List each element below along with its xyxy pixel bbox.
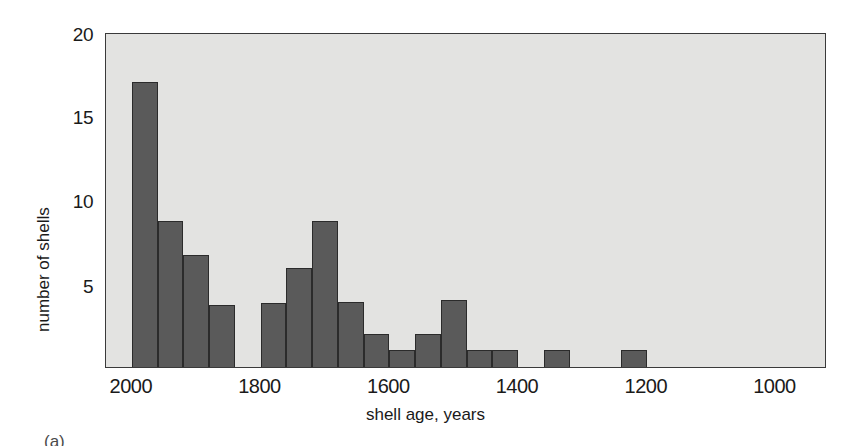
- x-tick-label-1000: 1000: [730, 375, 820, 397]
- y-tick-label-20: 20: [73, 25, 93, 44]
- histogram-bar: [544, 350, 570, 367]
- histogram-bar: [389, 350, 415, 367]
- histogram-bar: [261, 303, 287, 367]
- histogram-bar: [621, 350, 647, 367]
- histogram-bar: [312, 221, 338, 367]
- plot-frame: [105, 33, 826, 368]
- x-tick-label-1800: 1800: [215, 375, 305, 397]
- y-tick-label-5: 5: [83, 277, 93, 296]
- y-tick-label-15: 15: [73, 108, 93, 127]
- x-tick-label-1400: 1400: [472, 375, 562, 397]
- plot-area: [106, 34, 825, 367]
- x-tick-label-2000: 2000: [86, 375, 176, 397]
- y-axis-title: number of shells: [34, 207, 54, 332]
- x-axis-title: shell age, years: [0, 405, 851, 425]
- histogram-figure: 20 15 10 5 number of shells 2000 1800 16…: [0, 0, 851, 446]
- histogram-bar: [158, 221, 184, 367]
- x-tick-label-1200: 1200: [601, 375, 691, 397]
- histogram-bar: [338, 302, 364, 367]
- histogram-bar: [364, 334, 390, 368]
- histogram-bar: [441, 300, 467, 367]
- panel-label: (a): [44, 432, 65, 446]
- histogram-bar: [132, 82, 158, 367]
- histogram-bar: [286, 268, 312, 367]
- x-tick-label-1600: 1600: [343, 375, 433, 397]
- histogram-bar: [415, 334, 441, 368]
- histogram-bar: [183, 255, 209, 367]
- y-tick-label-10: 10: [73, 192, 93, 211]
- histogram-bar: [209, 305, 235, 367]
- histogram-bar: [492, 350, 518, 367]
- histogram-bar: [467, 350, 493, 367]
